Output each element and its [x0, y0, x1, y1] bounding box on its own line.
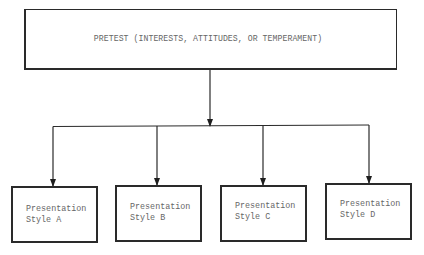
branch-bar: [53, 125, 369, 127]
style-c-line2: Style C: [235, 212, 295, 223]
style-b-label: Presentation Style B: [130, 202, 190, 224]
style-a-label: Presentation Style A: [26, 204, 86, 226]
style-b-line2: Style B: [130, 213, 190, 224]
style-d-line1: Presentation: [340, 199, 400, 210]
pretest-box: PRETEST (INTERESTS, ATTITUDES, OR TEMPER…: [24, 9, 397, 70]
style-c-label: Presentation Style C: [235, 201, 295, 223]
style-b-line1: Presentation: [130, 202, 190, 213]
style-b-box: Presentation Style B: [115, 185, 202, 242]
style-a-line2: Style A: [26, 215, 86, 226]
style-d-box: Presentation Style D: [325, 183, 412, 240]
style-d-line2: Style D: [340, 210, 400, 221]
style-a-line1: Presentation: [26, 204, 86, 215]
style-a-box: Presentation Style A: [11, 186, 98, 243]
pretest-label: PRETEST (INTERESTS, ATTITUDES, OR TEMPER…: [94, 34, 322, 43]
style-c-box: Presentation Style C: [220, 185, 307, 242]
style-c-line1: Presentation: [235, 201, 295, 212]
style-d-label: Presentation Style D: [340, 199, 400, 221]
